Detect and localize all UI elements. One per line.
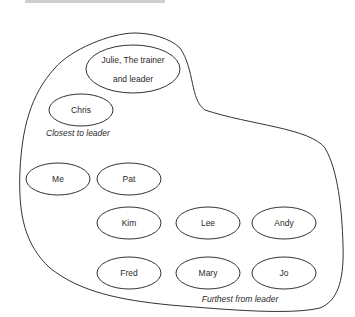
person-label: Kim <box>122 218 137 228</box>
person-label: and leader <box>113 74 153 84</box>
group-diagram: Julie, The trainerand leaderChrisMePatKi… <box>0 0 355 317</box>
person-node-me: Me <box>26 163 90 195</box>
person-label: Me <box>52 174 64 184</box>
person-node-fred: Fred <box>97 257 161 289</box>
person-ellipse <box>86 45 180 93</box>
cut-off-title-text <box>25 0 165 3</box>
person-label: Andy <box>274 218 294 228</box>
person-label: Julie, The trainer <box>101 55 164 65</box>
person-label: Lee <box>201 218 215 228</box>
person-node-jo: Jo <box>252 257 316 289</box>
person-node-mary: Mary <box>176 257 240 289</box>
person-label: Jo <box>280 268 289 278</box>
person-label: Mary <box>199 268 219 278</box>
closest-to-leader-caption: Closest to leader <box>46 128 111 138</box>
person-node-kim: Kim <box>97 207 161 239</box>
person-node-julie: Julie, The trainerand leader <box>86 45 180 93</box>
person-label: Chris <box>71 105 91 115</box>
person-label: Fred <box>120 268 138 278</box>
person-label: Pat <box>123 174 136 184</box>
person-node-pat: Pat <box>97 163 161 195</box>
person-node-andy: Andy <box>252 207 316 239</box>
person-node-chris: Chris <box>49 94 113 126</box>
person-node-lee: Lee <box>176 207 240 239</box>
furthest-from-leader-caption: Furthest from leader <box>202 294 280 304</box>
